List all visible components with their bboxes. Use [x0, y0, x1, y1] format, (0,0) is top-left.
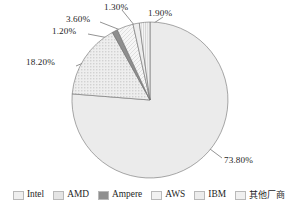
pie-chart-svg: [0, 0, 298, 186]
pie-label-ampere: 1.20%: [52, 27, 76, 36]
legend-item-aws[interactable]: AWS: [151, 190, 185, 199]
legend-swatch-aws: [151, 191, 162, 200]
legend-label-amd: AMD: [67, 190, 89, 199]
pie-label-ibm: 1.30%: [104, 3, 128, 12]
legend-swatch-ampere: [98, 191, 109, 200]
legend-label-ampere: Ampere: [112, 190, 142, 199]
pie-slices: [72, 22, 228, 178]
legend-swatch-ibm: [194, 191, 205, 200]
legend-label-others: 其他厂商: [249, 191, 285, 200]
pie-chart-figure: 73.80% 18.20% 1.20% 3.60% 1.30% 1.90% In…: [0, 0, 298, 221]
legend-item-others[interactable]: 其他厂商: [235, 191, 285, 200]
legend-swatch-amd: [53, 191, 64, 200]
legend-item-ibm[interactable]: IBM: [194, 190, 226, 199]
legend-label-intel: Intel: [27, 190, 44, 199]
pie-label-aws: 3.60%: [66, 15, 90, 24]
chart-legend: Intel AMD Ampere AWS IBM 其他厂商: [0, 186, 298, 204]
legend-item-ampere[interactable]: Ampere: [98, 190, 142, 199]
pie-label-intel: 73.80%: [224, 156, 253, 165]
legend-item-amd[interactable]: AMD: [53, 190, 89, 199]
pie-label-others: 1.90%: [148, 9, 172, 18]
pie-label-amd: 18.20%: [26, 58, 55, 67]
legend-item-intel[interactable]: Intel: [13, 190, 44, 199]
legend-swatch-others: [235, 191, 246, 200]
legend-swatch-intel: [13, 191, 24, 200]
legend-label-ibm: IBM: [208, 190, 226, 199]
legend-label-aws: AWS: [165, 190, 185, 199]
